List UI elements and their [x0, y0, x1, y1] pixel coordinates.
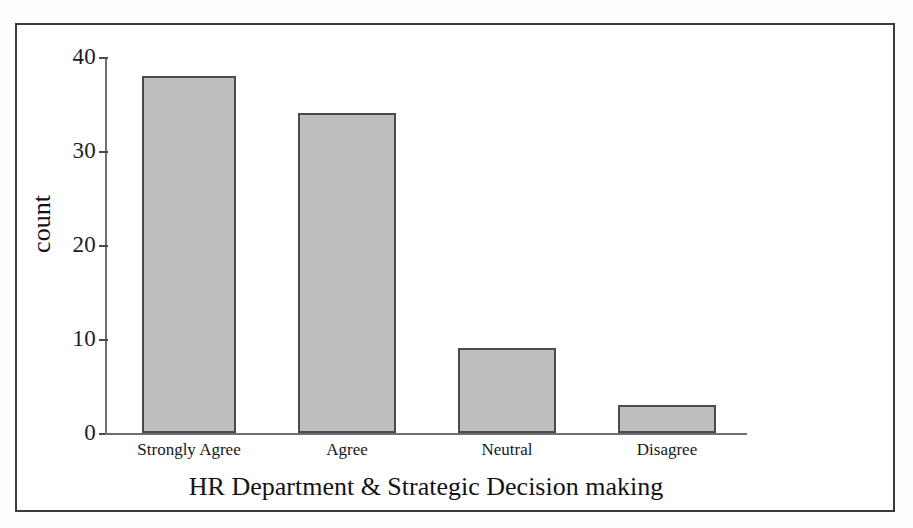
y-tick-label: 10 [50, 327, 96, 350]
y-tick-mark [99, 245, 108, 247]
bar-agree[interactable] [298, 113, 396, 433]
y-tick-label: 20 [50, 233, 96, 256]
x-axis-title: HR Department & Strategic Decision makin… [105, 472, 747, 502]
y-tick-mark [99, 339, 108, 341]
y-tick-mark [99, 57, 108, 59]
y-tick-label: 0 [50, 421, 96, 444]
x-tick-label-agree: Agree [267, 440, 427, 460]
figure-canvas: 40 30 20 10 0 Strongly Agree Agree Neutr… [0, 0, 913, 528]
x-axis-line [105, 433, 747, 435]
bar-strongly-agree[interactable] [142, 76, 236, 433]
y-axis-title: count [28, 169, 56, 279]
bar-disagree[interactable] [618, 405, 716, 433]
plot-area: 40 30 20 10 0 Strongly Agree Agree Neutr… [0, 0, 913, 528]
y-tick-mark [99, 151, 108, 153]
x-tick-label-strongly-agree: Strongly Agree [109, 440, 269, 460]
x-tick-label-disagree: Disagree [587, 440, 747, 460]
y-tick-label: 30 [50, 139, 96, 162]
bar-neutral[interactable] [458, 348, 556, 433]
x-tick-label-neutral: Neutral [427, 440, 587, 460]
y-tick-label: 40 [50, 45, 96, 68]
